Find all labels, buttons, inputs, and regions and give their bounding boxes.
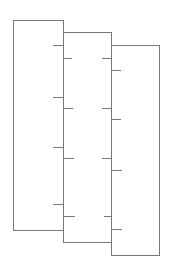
middle-panel [63, 33, 112, 243]
right-panel [111, 46, 160, 256]
left-panel-border [14, 21, 64, 231]
middle-panel-border [64, 33, 112, 243]
right-panel-border [112, 46, 160, 256]
panel-diagram [0, 0, 173, 262]
left-panel [14, 21, 64, 231]
